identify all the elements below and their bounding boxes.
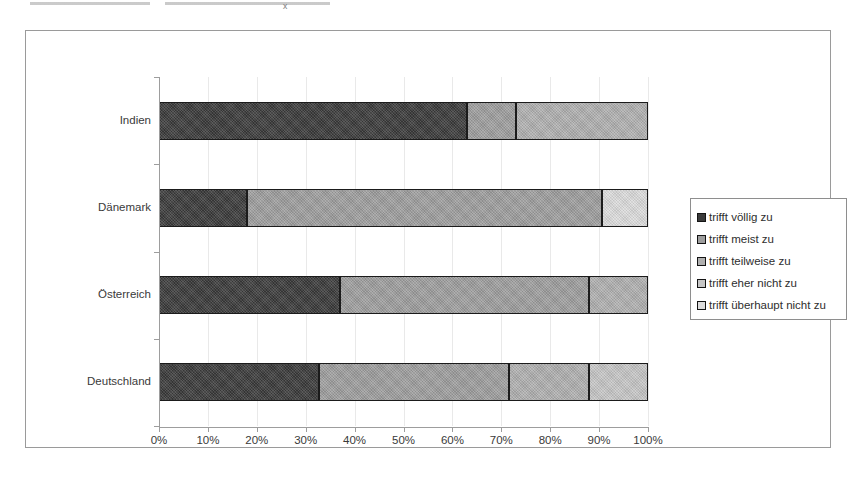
gridline [648,77,649,426]
bar-segment[interactable] [319,363,509,401]
x-axis-tick [452,427,453,432]
x-axis-tick-label: 20% [245,434,268,446]
scan-artifact-top-rule [30,2,450,5]
x-axis-tick-label: 70% [490,434,513,446]
chart-legend: trifft völlig zutrifft meist zutrifft te… [690,198,847,320]
x-axis-tick [599,427,600,432]
y-axis-labels: IndienDänemarkÖsterreichDeutschland [51,77,151,427]
x-axis-tick [257,427,258,432]
x-axis-tick-label: 90% [588,434,611,446]
y-axis-category-label: Deutschland [87,375,151,387]
x-axis-tick-label: 10% [196,434,219,446]
legend-item[interactable]: trifft meist zu [697,228,846,250]
bar-segment[interactable] [467,102,516,140]
legend-swatch-icon [697,213,706,222]
bar-segment[interactable] [602,189,648,227]
bar-segment[interactable] [340,276,589,314]
y-axis-tick [154,339,159,340]
x-axis-tick [208,427,209,432]
legend-swatch-icon [697,257,706,266]
legend-item[interactable]: trifft völlig zu [697,206,846,228]
legend-swatch-icon [697,279,706,288]
x-axis-tick [501,427,502,432]
x-axis-tick [550,427,551,432]
x-axis-tick [648,427,649,432]
x-axis-tick-label: 80% [539,434,562,446]
bar-segment[interactable] [159,102,467,140]
bar-segment[interactable] [159,363,319,401]
chart-frame: IndienDänemarkÖsterreichDeutschland 0%10… [25,30,831,448]
legend-item-label: trifft meist zu [709,234,774,245]
scan-artifact-glyph: ₓ [283,0,287,8]
legend-item[interactable]: trifft teilweise zu [697,250,846,272]
y-axis-tick [154,164,159,165]
legend-item-label: trifft teilweise zu [709,256,791,267]
legend-item[interactable]: trifft überhaupt nicht zu [697,294,846,316]
x-axis-tick [355,427,356,432]
legend-item-label: trifft überhaupt nicht zu [709,300,826,311]
legend-swatch-icon [697,301,706,310]
y-axis-tick [154,252,159,253]
x-axis-tick-label: 50% [392,434,415,446]
x-axis-tick-label: 40% [343,434,366,446]
bar-segment[interactable] [247,189,602,227]
x-axis-tick-label: 60% [441,434,464,446]
y-axis-category-label: Dänemark [98,201,151,213]
bar-segment[interactable] [589,363,648,401]
bar-segment[interactable] [159,189,247,227]
x-axis-tick-label: 0% [151,434,168,446]
bar-row [159,102,648,140]
x-axis-tick-label: 100% [633,434,662,446]
bar-row [159,276,648,314]
bar-row [159,189,648,227]
x-axis-tick [306,427,307,432]
y-axis-line [159,77,160,427]
bar-segment[interactable] [509,363,589,401]
legend-swatch-icon [697,235,706,244]
y-axis-tick [154,77,159,78]
y-axis-category-label: Österreich [98,288,151,300]
x-axis-tick-label: 30% [294,434,317,446]
y-axis-category-label: Indien [120,114,151,126]
legend-item-label: trifft eher nicht zu [709,278,797,289]
x-axis-tick [404,427,405,432]
legend-item-label: trifft völlig zu [709,212,773,223]
bar-segment[interactable] [589,276,648,314]
bar-row [159,363,648,401]
legend-item[interactable]: trifft eher nicht zu [697,272,846,294]
bar-segment[interactable] [159,276,340,314]
plot-area [159,77,648,426]
bar-segment[interactable] [516,102,648,140]
x-axis-tick [159,427,160,432]
